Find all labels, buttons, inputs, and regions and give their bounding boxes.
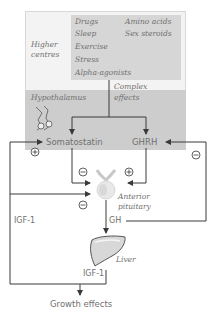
hypothalamus-icon — [36, 106, 52, 130]
minus-sign-somatostatin — [79, 168, 87, 176]
ghrh-to-pituitary — [128, 148, 146, 183]
igf1-feedback-to-somatostatin — [10, 142, 42, 284]
plus-sign-ghrh — [125, 168, 133, 176]
liver-icon — [91, 236, 126, 266]
minus-sign-igf1-pituitary — [79, 201, 87, 209]
liver-igf1-output — [10, 270, 106, 284]
arrow-to-ghrh — [109, 117, 146, 134]
pituitary-gland-icon — [97, 170, 115, 199]
diagram-connectors — [0, 0, 217, 318]
plus-sign-somatostatin-feedback — [31, 148, 39, 156]
arrow-to-somatostatin — [72, 117, 109, 134]
minus-sign-ghrh-feedback — [192, 151, 200, 159]
somatostatin-to-pituitary — [72, 148, 90, 183]
